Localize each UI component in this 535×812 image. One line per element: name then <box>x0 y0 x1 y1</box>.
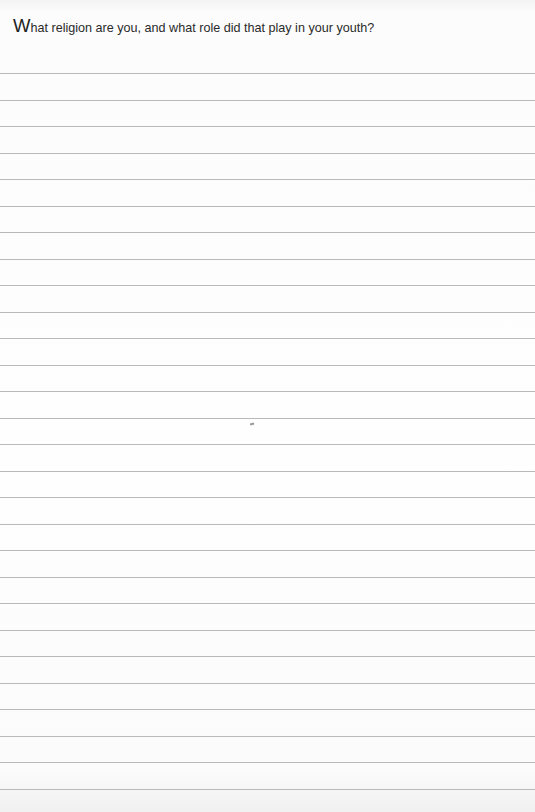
answer-line[interactable] <box>0 365 535 366</box>
answer-line[interactable] <box>0 232 535 233</box>
answer-line[interactable] <box>0 762 535 763</box>
answer-line[interactable] <box>0 577 535 578</box>
answer-line[interactable] <box>0 418 535 419</box>
answer-line[interactable] <box>0 497 535 498</box>
journal-page: What religion are you, and what role did… <box>0 0 535 812</box>
answer-line[interactable] <box>0 789 535 790</box>
answer-line[interactable] <box>0 153 535 154</box>
answer-line[interactable] <box>0 709 535 710</box>
answer-line[interactable] <box>0 312 535 313</box>
answer-lines-area[interactable] <box>0 0 535 812</box>
answer-line[interactable] <box>0 550 535 551</box>
answer-line[interactable] <box>0 285 535 286</box>
answer-line[interactable] <box>0 736 535 737</box>
answer-line[interactable] <box>0 100 535 101</box>
answer-line[interactable] <box>0 126 535 127</box>
answer-line[interactable] <box>0 471 535 472</box>
answer-line[interactable] <box>0 683 535 684</box>
answer-line[interactable] <box>0 338 535 339</box>
answer-line[interactable] <box>0 524 535 525</box>
answer-line[interactable] <box>0 603 535 604</box>
answer-line[interactable] <box>0 630 535 631</box>
answer-line[interactable] <box>0 179 535 180</box>
answer-line[interactable] <box>0 391 535 392</box>
answer-line[interactable] <box>0 73 535 74</box>
answer-line[interactable] <box>0 444 535 445</box>
answer-line[interactable] <box>0 259 535 260</box>
answer-line[interactable] <box>0 656 535 657</box>
answer-line[interactable] <box>0 206 535 207</box>
